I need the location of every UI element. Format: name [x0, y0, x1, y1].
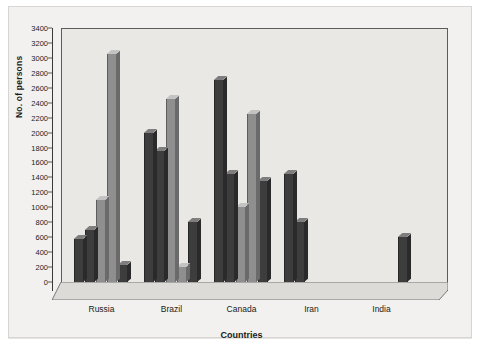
bar-side-face [267, 178, 271, 282]
y-axis-tick-label: 2600 [18, 83, 48, 92]
bar-side-face [223, 77, 227, 282]
y-axis-tick-label: 0 [18, 278, 48, 287]
floor-3d [52, 282, 448, 300]
y-axis-tick-mark [48, 87, 52, 88]
bar [284, 174, 293, 282]
bar-side-face [94, 226, 98, 282]
bar-side-face [164, 148, 168, 282]
y-axis-tick-label: 3000 [18, 53, 48, 62]
y-axis-tick-mark [48, 222, 52, 223]
bar [398, 237, 407, 282]
y-axis-tick-mark [48, 28, 52, 29]
y-axis-tick-mark [48, 267, 52, 268]
y-axis-tick-label: 3400 [18, 24, 48, 33]
y-axis-tick-mark [48, 132, 52, 133]
y-axis-tick-mark [48, 177, 52, 178]
bar-side-face [153, 129, 157, 282]
bar-side-face [116, 51, 120, 282]
bar-chart: No. of persons 0200400600800100012001400… [0, 0, 483, 357]
y-axis-tick-mark [48, 117, 52, 118]
x-axis-group-label: India [372, 304, 390, 314]
bar [214, 80, 223, 282]
bar-side-face [407, 234, 411, 282]
bar-side-face [293, 170, 297, 282]
bar [74, 239, 83, 282]
bar-side-face [256, 111, 260, 282]
bar-side-face [127, 261, 131, 282]
bar-side-face [234, 170, 238, 282]
bar-side-face [83, 235, 87, 282]
x-axis-title: Countries [0, 330, 483, 340]
y-axis-line [52, 28, 53, 291]
bar-side-face [304, 219, 308, 282]
y-axis-tick-mark [48, 147, 52, 148]
x-axis-group-label: Canada [227, 304, 257, 314]
x-axis-group-label: Iran [304, 304, 319, 314]
bar-side-face [197, 219, 201, 282]
y-axis-tick-label: 800 [18, 218, 48, 227]
plot-area: 0200400600800100012001400160018002000220… [52, 28, 448, 300]
bar-side-face [175, 96, 179, 282]
y-axis-tick-label: 1600 [18, 158, 48, 167]
y-axis-tick-label: 2200 [18, 113, 48, 122]
y-axis-tick-mark [48, 57, 52, 58]
bar [144, 133, 153, 282]
y-axis-tick-label: 3200 [18, 38, 48, 47]
y-axis-tick-label: 400 [18, 248, 48, 257]
y-axis-tick-label: 2400 [18, 98, 48, 107]
y-axis-tick-mark [48, 237, 52, 238]
y-axis-tick-label: 2800 [18, 68, 48, 77]
y-axis-tick-mark [48, 72, 52, 73]
y-axis-tick-mark [48, 102, 52, 103]
y-axis-tick-label: 1200 [18, 188, 48, 197]
y-axis-tick-mark [48, 42, 52, 43]
y-axis-tick-label: 2000 [18, 128, 48, 137]
y-axis-tick-label: 200 [18, 263, 48, 272]
y-axis-tick-mark [48, 252, 52, 253]
y-axis-tick-mark [48, 282, 52, 283]
y-axis-tick-label: 1800 [18, 143, 48, 152]
y-axis-tick-mark [48, 192, 52, 193]
x-axis-group-label: Brazil [161, 304, 182, 314]
y-axis-tick-label: 1400 [18, 173, 48, 182]
bar-side-face [105, 196, 109, 282]
y-axis-tick-label: 600 [18, 233, 48, 242]
y-axis-tick-mark [48, 207, 52, 208]
y-axis-tick-mark [48, 162, 52, 163]
x-axis-group-label: Russia [89, 304, 115, 314]
bar-side-face [245, 204, 249, 282]
y-axis-tick-label: 1000 [18, 203, 48, 212]
chart-screenshot: No. of persons 0200400600800100012001400… [0, 0, 483, 357]
